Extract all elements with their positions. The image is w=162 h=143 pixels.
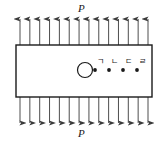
bottom-load-arrow-group: [20, 97, 148, 123]
point-label-2: ㄴ: [111, 58, 118, 66]
plate-body: [16, 45, 152, 97]
measurement-point-dot: [93, 68, 97, 72]
mechanics-figure: P P ㄱㄴㄷㄹ: [0, 0, 162, 143]
measurement-point-dot: [121, 68, 125, 72]
top-load-arrow-group: [20, 19, 148, 45]
measurement-point-dot: [135, 68, 139, 72]
point-label-4: ㄹ: [139, 58, 146, 66]
point-label-3: ㄷ: [125, 58, 132, 66]
measurement-point-dot: [107, 68, 111, 72]
point-label-1: ㄱ: [97, 58, 104, 66]
figure-canvas: [0, 0, 162, 143]
top-load-label: P: [78, 3, 85, 14]
bottom-load-label: P: [78, 128, 85, 139]
